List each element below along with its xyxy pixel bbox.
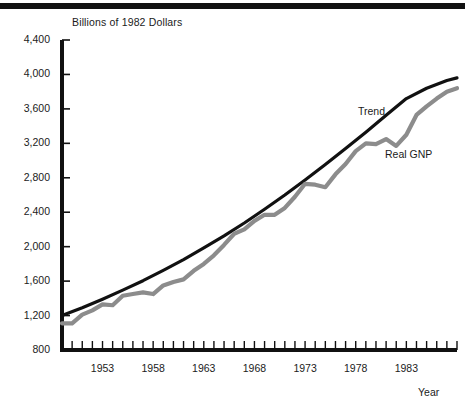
plot-area bbox=[0, 0, 465, 411]
axes bbox=[60, 40, 457, 350]
data-series bbox=[62, 78, 457, 323]
chart-figure: Billions of 1982 Dollars Year 4,4004,000… bbox=[0, 0, 465, 411]
series-line-real-gnp bbox=[62, 88, 457, 323]
series-label-trend: Trend bbox=[358, 105, 385, 117]
series-line-trend bbox=[62, 78, 457, 316]
series-label-real-gnp: Real GNP bbox=[385, 148, 432, 160]
